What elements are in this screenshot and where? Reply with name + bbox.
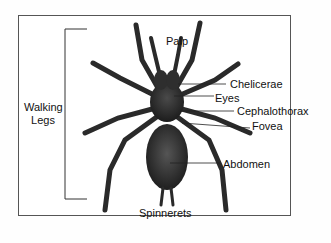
label-chelicerae: Chelicerae	[230, 79, 283, 90]
label-walking-legs-line2: Legs	[24, 115, 62, 126]
label-spinnerets: Spinnerets	[139, 208, 192, 219]
label-cephalothorax: Cephalothorax	[237, 106, 309, 117]
abdomen-shape	[146, 124, 188, 190]
walking-legs-bracket	[65, 29, 87, 199]
label-abdomen: Abdomen	[223, 159, 270, 170]
label-eyes: Eyes	[215, 93, 239, 104]
label-walking-legs-line1: Walking	[24, 102, 62, 113]
label-palp: Palp	[166, 36, 188, 47]
label-fovea: Fovea	[252, 121, 283, 132]
cephalothorax-shape	[150, 82, 184, 122]
label-walking-legs: Walking Legs	[24, 102, 62, 126]
chelicerae-shape	[154, 70, 168, 90]
